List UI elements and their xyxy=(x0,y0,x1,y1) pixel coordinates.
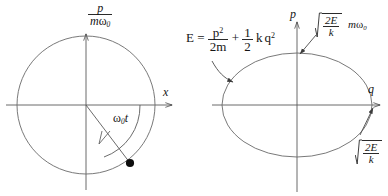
equals-sign: = xyxy=(197,30,204,45)
position-amplitude-arrow xyxy=(360,108,373,135)
one-half-fraction: 1 2 xyxy=(242,26,253,53)
one-half-denominator: 2 xyxy=(242,40,253,53)
angle-time: t xyxy=(125,111,128,125)
momentum-amplitude-label: 2E k mω0 xyxy=(315,13,367,38)
angle-label: ω0t xyxy=(113,112,128,126)
spring-constant: k xyxy=(256,30,263,45)
momentum-amplitude-mass: m xyxy=(348,18,356,30)
equation-pointer-arrow xyxy=(212,61,233,82)
position-radical-denominator: k xyxy=(363,154,379,165)
energy-equation: E = p2 2m + 1 2 kq2 xyxy=(186,26,275,53)
position-radical-numerator: 2E xyxy=(365,141,377,153)
position-amplitude-radical: 2E k xyxy=(355,140,382,165)
kinetic-denominator: 2m xyxy=(208,40,229,53)
left-diagram-group xyxy=(6,34,172,190)
position-amplitude-label: 2E k xyxy=(355,140,382,165)
momentum-radical-denominator: k xyxy=(323,27,339,38)
phase-space-figure: p mω0 x ω0t E = p2 2m + 1 2 kq2 p q xyxy=(0,0,388,196)
kinetic-energy-term: p2 2m xyxy=(208,26,229,53)
momentum-exponent: 2 xyxy=(219,26,223,35)
angle-omega: ω xyxy=(113,111,121,125)
momentum-amplitude-arrow xyxy=(300,35,316,54)
one-half-numerator: 1 xyxy=(242,26,253,40)
momentum-radical-numerator: 2E xyxy=(325,14,337,26)
state-point xyxy=(126,159,134,167)
angle-arc-arrow xyxy=(99,131,110,144)
left-vertical-axis-label: p mω0 xyxy=(88,2,112,29)
momentum-amplitude-radical: 2E k xyxy=(315,13,342,38)
right-horizontal-axis-label: q xyxy=(368,83,374,96)
left-axis-denominator-omega: ω xyxy=(99,14,107,28)
radical-sign-icon xyxy=(315,12,322,38)
left-axis-denominator-omega-subscript: 0 xyxy=(107,20,111,29)
left-axis-denominator-mass: m xyxy=(90,14,99,28)
energy-symbol: E xyxy=(186,30,194,45)
coordinate-exponent: 2 xyxy=(271,31,275,40)
radical-sign-icon xyxy=(355,139,362,165)
left-horizontal-axis-label: x xyxy=(163,86,168,99)
momentum-amplitude-omega-subscript: 0 xyxy=(363,24,366,31)
plus-sign: + xyxy=(232,30,239,45)
right-vertical-axis-label: p xyxy=(290,8,296,21)
